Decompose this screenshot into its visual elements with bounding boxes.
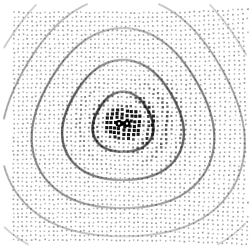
dipole-field-scatter-plot [0,0,250,249]
figure-container: Deformed grid of square markers depictin… [0,0,250,249]
